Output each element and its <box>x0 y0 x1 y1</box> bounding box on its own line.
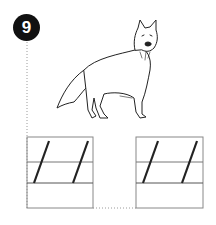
writing-box-left[interactable] <box>27 137 93 208</box>
exercise-number-badge: 9 <box>13 14 40 41</box>
writing-box-right[interactable] <box>136 137 203 208</box>
fox-drawing-icon <box>57 20 157 118</box>
